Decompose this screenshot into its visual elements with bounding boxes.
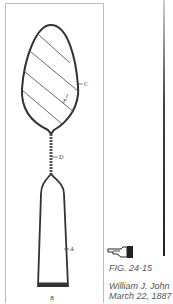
pointing-hand-icon <box>107 244 137 260</box>
patent-drawing-panel: C F D A B <box>5 3 104 303</box>
label-f: F <box>62 98 67 104</box>
label-b: B <box>50 295 54 301</box>
loop-tool-drawing: C F D A B <box>6 4 105 304</box>
label-d: D <box>58 154 64 160</box>
patent-date: March 22, 1887 <box>109 291 172 301</box>
figure-caption: FIG. 24-15 <box>109 263 152 273</box>
inventor-info: William J. John March 22, 1887 <box>109 281 172 301</box>
inventor-name: William J. John <box>109 281 172 291</box>
label-a: A <box>69 246 74 252</box>
label-c: C <box>84 81 89 87</box>
page-divider-rule <box>163 0 165 256</box>
